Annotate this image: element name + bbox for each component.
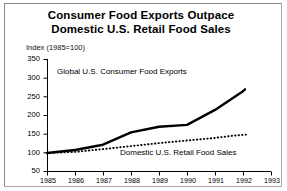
y-axis-ticks: [44, 60, 48, 172]
x-tick-label-1992: 1992: [229, 177, 259, 185]
y-tick-label-50: 50: [14, 167, 40, 175]
x-tick-label-1989: 1989: [145, 177, 175, 185]
y-tick-label-250: 250: [14, 93, 40, 101]
x-tick-label-1993: 1993: [257, 177, 287, 185]
x-tick-label-1987: 1987: [89, 177, 119, 185]
series-label-domestic: Domestic U.S. Retail Food Sales: [120, 148, 237, 157]
chart-figure: Consumer Food Exports Outpace Domestic U…: [0, 0, 287, 191]
x-tick-label-1990: 1990: [173, 177, 203, 185]
y-tick-label-150: 150: [14, 130, 40, 138]
x-tick-label-1988: 1988: [117, 177, 147, 185]
plot-area: [0, 0, 287, 191]
x-tick-label-1991: 1991: [201, 177, 231, 185]
y-tick-label-350: 350: [14, 55, 40, 63]
y-tick-label-200: 200: [14, 111, 40, 119]
x-axis-ticks: [48, 172, 272, 176]
series-label-exports: Global U.S. Consumer Food Exports: [57, 67, 187, 76]
x-tick-label-1985: 1985: [33, 177, 63, 185]
y-tick-label-100: 100: [14, 149, 40, 157]
x-tick-label-1986: 1986: [61, 177, 91, 185]
series-exports-line: [47, 89, 245, 153]
y-tick-label-300: 300: [14, 74, 40, 82]
